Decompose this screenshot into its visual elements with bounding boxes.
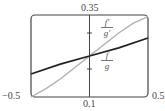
legend-numerator: f′ — [101, 17, 113, 28]
x-max-label: 0.5 — [152, 91, 165, 101]
y-min-label: 0.1 — [83, 99, 96, 109]
chart-plot — [0, 0, 165, 111]
y-max-label: 0.35 — [81, 3, 99, 13]
legend-numerator: f — [101, 50, 113, 61]
legend-denominator: g — [101, 61, 113, 71]
x-min-label: −0.5 — [2, 91, 20, 101]
legend-fprime-over-gprime: f′ g′ — [101, 17, 113, 38]
legend-f-over-g: f g — [101, 50, 113, 71]
legend-denominator: g′ — [101, 28, 113, 38]
